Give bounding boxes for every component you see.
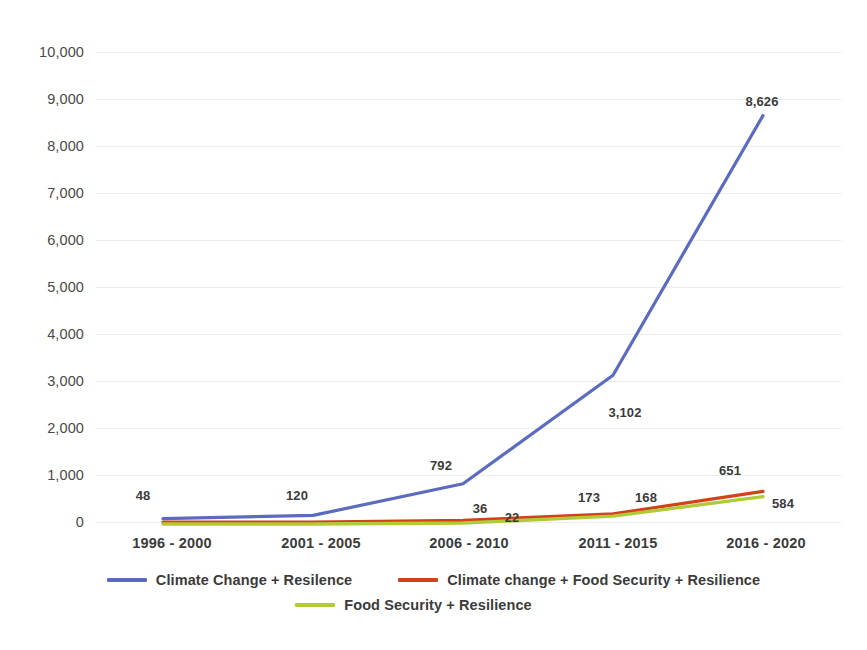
legend-label-climate-food-resilience: Climate change + Food Security + Resilie… [447,572,760,588]
y-tick-6000: 6,000 [12,232,84,248]
gridline-0 [96,522,841,523]
legend-item-climate-food-resilience[interactable]: Climate change + Food Security + Resilie… [398,572,760,588]
x-tick-2001-2005: 2001 - 2005 [281,535,361,551]
data-label-blue-2006: 792 [430,458,452,473]
gridline-9000 [96,99,841,100]
gridline-5000 [96,287,841,288]
data-label-blue-2001: 120 [286,488,308,503]
y-tick-5000: 5,000 [12,279,84,295]
chart-legend: Climate Change + Resilence Climate chang… [0,572,867,622]
gridline-7000 [96,193,841,194]
x-tick-2011-2015: 2011 - 2015 [579,535,658,551]
legend-item-food-security-resilience[interactable]: Food Security + Resilience [295,597,532,613]
y-tick-0: 0 [12,514,84,530]
series-line-blue-main [163,116,763,519]
data-label-blue-2011: 3,102 [608,405,641,420]
legend-swatch-icon-green [295,603,335,607]
y-tick-3000: 3,000 [12,373,84,389]
y-tick-1000: 1,000 [12,467,84,483]
x-tick-2016-2020: 2016 - 2020 [726,535,806,551]
y-tick-2000: 2,000 [12,420,84,436]
legend-row-1: Climate Change + Resilence Climate chang… [0,572,867,588]
data-label-green-2011: 168 [635,490,657,505]
legend-swatch-icon-blue [107,578,147,582]
data-label-blue-1996: 48 [136,488,151,503]
data-label-red-2016: 651 [719,463,741,478]
gridline-3000 [96,381,841,382]
y-tick-7000: 7,000 [12,185,84,201]
series-line-green-main [163,497,763,524]
gridline-4000 [96,334,841,335]
data-label-green-2016: 584 [772,496,794,511]
gridline-10000 [96,52,841,53]
data-label-blue-2016: 8,626 [745,94,778,109]
y-tick-4000: 4,000 [12,326,84,342]
series-line-red-main [163,491,763,522]
y-tick-8000: 8,000 [12,138,84,154]
y-tick-9000: 9,000 [12,91,84,107]
legend-swatch-icon-red [398,578,438,582]
y-tick-10000: 10,000 [12,44,84,60]
data-label-green-2006: 22 [505,510,520,525]
legend-item-climate-change-resilence[interactable]: Climate Change + Resilence [107,572,352,588]
x-tick-2006-2010: 2006 - 2010 [429,535,509,551]
line-chart: 10,000 9,000 8,000 7,000 6,000 5,000 4,0… [0,0,867,650]
gridline-2000 [96,428,841,429]
x-tick-1996-2000: 1996 - 2000 [132,535,212,551]
data-label-red-2011: 173 [578,490,600,505]
data-label-red-2006: 36 [473,501,488,516]
legend-label-climate-change-resilence: Climate Change + Resilence [156,572,352,588]
legend-row-2: Food Security + Resilience [0,597,867,613]
legend-label-food-security-resilience: Food Security + Resilience [344,597,532,613]
series-lines-primary [0,0,867,650]
gridline-6000 [96,240,841,241]
gridline-8000 [96,146,841,147]
